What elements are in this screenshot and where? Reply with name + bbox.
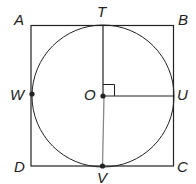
point-w bbox=[29, 91, 34, 96]
label-u: U bbox=[177, 86, 188, 103]
point-o bbox=[100, 93, 105, 98]
label-a: A bbox=[13, 11, 24, 28]
label-v: V bbox=[97, 169, 109, 184]
label-o: O bbox=[84, 86, 96, 103]
label-b: B bbox=[178, 11, 188, 28]
label-d: D bbox=[14, 158, 25, 175]
segment-ov bbox=[103, 96, 105, 166]
label-t: T bbox=[97, 3, 108, 20]
geometry-diagram: A B C D T U V W O bbox=[0, 0, 196, 184]
point-v bbox=[100, 163, 105, 168]
label-c: C bbox=[177, 158, 188, 175]
label-w: W bbox=[10, 86, 26, 103]
